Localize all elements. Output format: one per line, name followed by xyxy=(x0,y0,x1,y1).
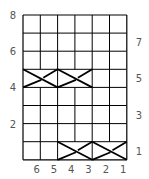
cable-cross-line xyxy=(58,152,76,160)
row-label-right: 7 xyxy=(136,37,142,48)
cable-cross-line xyxy=(92,152,110,160)
column-label: 2 xyxy=(103,164,109,175)
row-label-right: 3 xyxy=(136,110,142,121)
row-label-left: 2 xyxy=(10,119,16,130)
column-label: 1 xyxy=(120,164,126,175)
cable-cross-line xyxy=(23,80,41,88)
cable-cross-line xyxy=(43,69,57,78)
column-label: 6 xyxy=(33,164,39,175)
row-label-right: 5 xyxy=(136,73,142,84)
row-label-left: 4 xyxy=(10,82,16,93)
row-label-left: 6 xyxy=(10,46,16,57)
row-label-right: 1 xyxy=(136,146,142,157)
cable-cross-line xyxy=(78,69,92,78)
column-label: 5 xyxy=(51,164,57,175)
row-label-left: 8 xyxy=(10,10,16,21)
cable-cross-line xyxy=(113,142,127,151)
cable-cross-line xyxy=(78,142,92,151)
column-label: 3 xyxy=(85,164,91,175)
cable-chart: 86427531654321 xyxy=(0,0,149,179)
cable-cross-line xyxy=(58,80,76,88)
column-label: 4 xyxy=(68,164,74,175)
